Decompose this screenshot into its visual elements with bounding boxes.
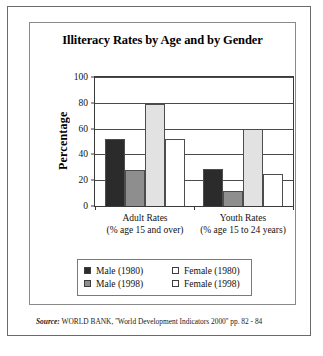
- bar-youth-female-1980[interactable]: [243, 129, 263, 206]
- legend-item-male-1980[interactable]: Male (1980): [84, 266, 172, 276]
- legend-item-male-1998[interactable]: Male (1998): [84, 279, 172, 289]
- bar-adult-female-1998[interactable]: [165, 139, 185, 206]
- legend-label-male-1998: Male (1998): [96, 279, 143, 289]
- source-text: WORLD BANK, ''World Development Indicato…: [62, 317, 263, 326]
- bar-youth-male-1980[interactable]: [203, 169, 223, 206]
- x-axis-label-youth-sub: (% age 15 to 24 years): [193, 224, 293, 236]
- y-tick-label-60: 60: [79, 124, 96, 134]
- legend-swatch-female-1998-icon: [172, 280, 179, 287]
- x-axis-label-adult-sub: (% age 15 and over): [95, 224, 195, 236]
- legend-item-female-1998[interactable]: Female (1998): [172, 279, 240, 289]
- legend-swatch-male-1980-icon: [84, 267, 91, 274]
- legend-label-female-1998: Female (1998): [184, 279, 240, 289]
- bar-youth-male-1998[interactable]: [223, 191, 243, 206]
- page-border: Illiteracy Rates by Age and by Gender Pe…: [7, 6, 311, 336]
- legend-row-1998: Male (1998) Female (1998): [84, 277, 245, 290]
- chart-title: Illiteracy Rates by Age and by Gender: [30, 33, 295, 48]
- x-tick-mark-middle: [194, 206, 195, 210]
- x-tick-mark-right: [293, 206, 294, 210]
- legend-swatch-female-1980-icon: [172, 267, 179, 274]
- bar-adult-male-1998[interactable]: [125, 170, 145, 206]
- x-axis-label-youth-main: Youth Rates: [220, 213, 266, 223]
- legend-label-male-1980: Male (1980): [96, 266, 143, 276]
- legend-label-female-1980: Female (1980): [184, 266, 240, 276]
- legend-row-1980: Male (1980) Female (1980): [84, 264, 245, 277]
- bar-group-youth: [203, 77, 283, 206]
- x-tick-mark-left: [95, 206, 96, 210]
- x-axis-label-adult-main: Adult Rates: [122, 213, 167, 223]
- y-tick-label-20: 20: [79, 175, 96, 185]
- x-axis-label-youth: Youth Rates (% age 15 to 24 years): [193, 212, 293, 236]
- y-tick-label-100: 100: [74, 72, 95, 82]
- source-label: Source:: [36, 317, 60, 326]
- y-tick-label-40: 40: [79, 149, 96, 159]
- bar-group-adult: [105, 77, 185, 206]
- y-tick-label-0: 0: [83, 201, 95, 211]
- chart-legend: Male (1980) Female (1980) Male (1998) Fe…: [77, 259, 252, 296]
- bar-youth-female-1998[interactable]: [263, 174, 283, 206]
- y-tick-label-80: 80: [79, 98, 96, 108]
- plot-area: 100 80 60 40 20 0: [94, 76, 294, 207]
- legend-item-female-1980[interactable]: Female (1980): [172, 266, 240, 276]
- chart-container: Illiteracy Rates by Age and by Gender Pe…: [29, 22, 296, 305]
- bar-adult-female-1980[interactable]: [145, 104, 165, 206]
- source-note: Source: WORLD BANK, ''World Development …: [36, 317, 262, 326]
- legend-swatch-male-1998-icon: [84, 280, 91, 287]
- x-axis-label-adult: Adult Rates (% age 15 and over): [95, 212, 195, 236]
- y-axis-title: Percentage: [56, 76, 71, 205]
- bar-adult-male-1980[interactable]: [105, 139, 125, 206]
